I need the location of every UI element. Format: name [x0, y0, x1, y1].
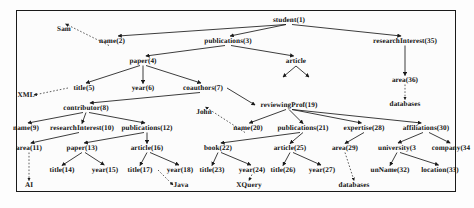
tree-node-n33: location(33): [421, 166, 459, 174]
tree-node-n27: year(27): [309, 166, 335, 174]
tree-node-vSam: Sam: [57, 25, 71, 33]
tree-node-n5: title(5): [73, 84, 94, 92]
diagram-canvas: student(1)name(2)publications(3)research…: [0, 0, 474, 208]
tree-node-n12: publications(12): [121, 124, 172, 132]
tree-node-vAI: AI: [25, 181, 33, 189]
tree-node-n1: student(1): [273, 16, 305, 24]
tree-node-vJava: Java: [174, 181, 189, 189]
tree-node-n2: name(2): [99, 37, 125, 45]
tree-node-n3: publications(3): [204, 37, 251, 45]
tree-node-n16: article(16): [131, 144, 164, 152]
tree-node-n31: university(3: [378, 144, 416, 152]
tree-node-n20: name(20): [233, 124, 263, 132]
tree-node-n6: year(6): [132, 84, 155, 92]
tree-node-n4: paper(4): [129, 57, 156, 65]
tree-node-vDatabases2: databases: [339, 181, 370, 189]
tree-node-n18: year(18): [167, 166, 193, 174]
tree-node-vXQuery: XQuery: [236, 181, 261, 189]
tree-node-n32: unName(32): [371, 166, 410, 174]
tree-node-n7: coauthors(7): [183, 84, 223, 92]
tree-node-vDatabases1: databases: [390, 100, 421, 108]
tree-node-n21: publications(21): [277, 124, 328, 132]
tree-node-n17: title(17): [128, 166, 153, 174]
tree-node-vXML: XML: [17, 91, 34, 99]
tree-node-n19: reviewingProf(19): [261, 101, 318, 109]
tree-node-n29: area(29): [332, 144, 358, 152]
tree-node-n8: contributor(8): [63, 104, 108, 112]
tree-node-n10: researchInterest(10): [50, 124, 114, 132]
tree-node-n9: name(9): [13, 124, 39, 132]
tree-node-n36: area(36): [392, 76, 418, 84]
tree-node-n28: expertise(28): [344, 124, 385, 132]
tree-node-n34: company(34: [432, 144, 471, 152]
tree-node-n22: book(22): [204, 144, 232, 152]
tree-node-n25: article(25): [274, 144, 307, 152]
tree-node-n15: year(15): [92, 166, 118, 174]
tree-node-n23: title(23): [200, 166, 225, 174]
tree-node-narticle: article: [286, 57, 306, 65]
tree-node-n13: paper(13): [67, 144, 98, 152]
tree-node-n24: year(24): [239, 166, 265, 174]
tree-node-n14: title(14): [50, 166, 75, 174]
tree-node-vJohn: John: [196, 108, 212, 116]
tree-node-n26: title(26): [271, 166, 296, 174]
tree-node-n11: area(11): [16, 144, 42, 152]
tree-node-n35: researchInterest(35): [373, 37, 437, 45]
tree-node-n30: affiliations(30): [403, 124, 449, 132]
